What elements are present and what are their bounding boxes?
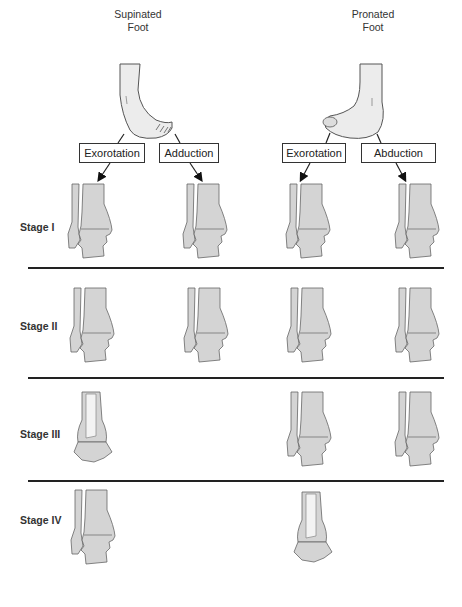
ankle-illustration-se-4 [69,488,119,568]
ankle-illustration-sa-1 [181,182,231,262]
stage-label-1: Stage I [20,221,54,233]
ankle-illustration-sa-2 [182,286,232,366]
ankle-illustration-pe-3 [285,390,335,470]
ankle-illustration-pa-2 [393,286,443,366]
mechanism-box-pronation-exorotation: Exorotation [282,143,346,163]
stage-label-2: Stage II [20,320,57,332]
ankle-illustration-pe-2 [285,286,335,366]
stage-divider-1 [28,267,444,269]
stage-label-4: Stage IV [20,514,61,526]
stage-label-3: Stage III [20,428,60,440]
ankle-illustration-pa-1 [393,182,443,262]
ankle-illustration-pe-4-frontal [292,490,332,570]
mechanism-box-supination-exorotation: Exorotation [79,143,145,163]
stage-divider-2 [28,377,444,379]
ankle-illustration-se-1 [66,182,116,262]
ankle-illustration-se-3-frontal [72,390,112,470]
mechanism-box-pronation-abduction: Abduction [361,143,436,163]
mechanism-box-supination-adduction: Adduction [159,143,219,163]
ankle-illustration-pa-3 [393,390,443,470]
stage-divider-3 [28,480,444,482]
ankle-illustration-se-2 [68,286,118,366]
ankle-illustration-pe-1 [284,182,334,262]
